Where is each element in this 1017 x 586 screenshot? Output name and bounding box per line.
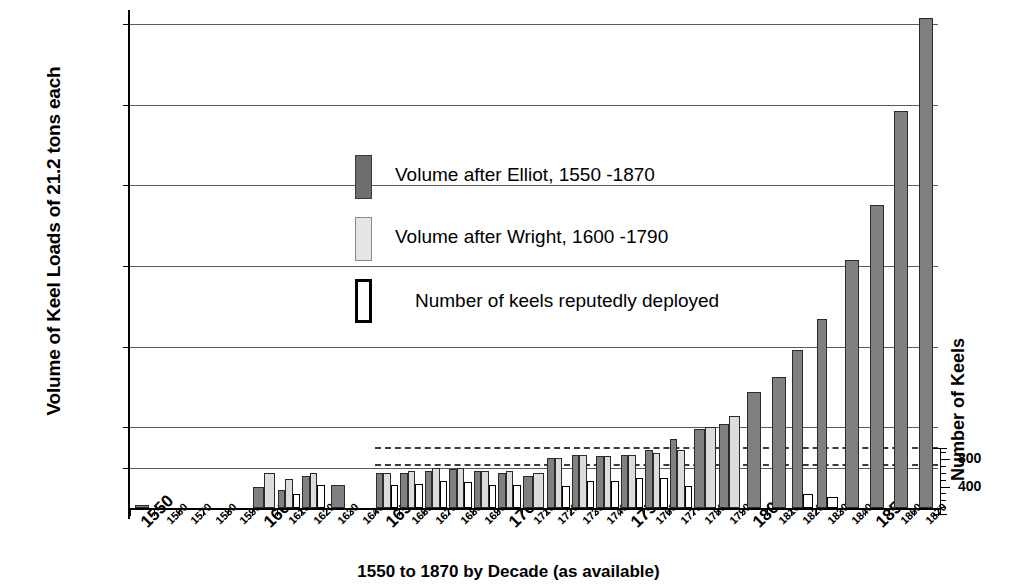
secondary-y-axis-tick: [941, 480, 946, 481]
bar-group: [669, 18, 693, 513]
bar-elliot[interactable]: [596, 456, 603, 508]
bar-elliot[interactable]: [694, 429, 705, 508]
bar-elliot[interactable]: [547, 458, 554, 508]
bar-group: [791, 18, 815, 513]
legend-swatch-keels: [355, 279, 372, 323]
bar-keels[interactable]: [391, 485, 398, 508]
chart-container: Volume of Keel Loads of 21.2 tons each N…: [0, 0, 1017, 586]
bar-elliot[interactable]: [870, 205, 884, 508]
bar-wright[interactable]: [677, 450, 684, 508]
bar-group: [522, 18, 546, 513]
bar-wright[interactable]: [533, 473, 544, 508]
bar-keels[interactable]: [317, 485, 324, 508]
bar-elliot[interactable]: [747, 392, 761, 508]
x-axis-title: 1550 to 1870 by Decade (as available): [0, 562, 1017, 582]
bar-elliot[interactable]: [670, 439, 677, 508]
legend-swatch-wright: [355, 217, 372, 261]
bar-elliot[interactable]: [135, 505, 149, 508]
bar-group: [571, 18, 595, 513]
bar-group: [840, 18, 864, 513]
bar-elliot[interactable]: [498, 473, 505, 508]
bar-wright[interactable]: [432, 468, 439, 508]
bar-wright[interactable]: [383, 473, 390, 508]
bar-wright[interactable]: [285, 479, 292, 508]
bar-elliot[interactable]: [645, 450, 652, 508]
bar-wright[interactable]: [628, 455, 635, 508]
bar-group: [473, 18, 497, 513]
legend-label: Number of keels reputedly deployed: [415, 290, 719, 312]
bar-elliot[interactable]: [474, 471, 481, 508]
secondary-axis-cap: [933, 514, 947, 515]
legend-swatch-elliot: [355, 155, 372, 199]
bar-elliot[interactable]: [400, 473, 407, 508]
bar-wright[interactable]: [653, 453, 660, 508]
bar-elliot[interactable]: [845, 260, 859, 508]
bar-wright[interactable]: [457, 468, 464, 508]
bar-group: [742, 18, 766, 513]
bar-elliot[interactable]: [376, 473, 383, 508]
bar-group: [179, 18, 203, 513]
bar-keels[interactable]: [464, 482, 471, 508]
bar-wright[interactable]: [506, 471, 513, 508]
bar-wright[interactable]: [264, 473, 275, 508]
bar-elliot[interactable]: [425, 471, 432, 508]
bar-wright[interactable]: [310, 473, 317, 508]
bar-elliot[interactable]: [719, 424, 730, 508]
bar-keels[interactable]: [587, 481, 594, 509]
bar-keels[interactable]: [611, 481, 618, 508]
bar-keels[interactable]: [489, 485, 496, 508]
bar-group: [865, 18, 889, 513]
bar-keels[interactable]: [803, 494, 814, 508]
bar-elliot[interactable]: [302, 476, 309, 508]
secondary-y-axis-tick-label: 800: [958, 451, 981, 465]
bar-group: [693, 18, 717, 513]
bar-wright[interactable]: [705, 427, 716, 508]
bar-group: [130, 18, 154, 513]
secondary-y-axis-tick: [941, 459, 950, 460]
secondary-y-axis-line: [940, 448, 941, 514]
bar-elliot[interactable]: [278, 490, 285, 508]
bar-elliot[interactable]: [919, 18, 933, 508]
bar-wright[interactable]: [604, 456, 611, 508]
bar-keels[interactable]: [440, 481, 447, 509]
bar-wright[interactable]: [481, 471, 488, 508]
bar-keels[interactable]: [636, 478, 643, 508]
bar-keels[interactable]: [513, 485, 520, 508]
bar-elliot[interactable]: [449, 469, 456, 508]
y-axis-tick: [123, 468, 130, 469]
bar-group: [620, 18, 644, 513]
plot-area: 25,00050,000100,000150,000200,000250,000…: [130, 18, 938, 513]
bar-wright[interactable]: [579, 455, 586, 508]
bar-elliot[interactable]: [572, 455, 579, 508]
bar-elliot[interactable]: [621, 455, 628, 508]
bar-wright[interactable]: [408, 471, 415, 508]
y-axis-tick: [123, 105, 130, 106]
secondary-y-axis-tick-label: 400: [958, 479, 981, 493]
bar-elliot[interactable]: [817, 319, 828, 508]
bar-elliot[interactable]: [331, 485, 345, 508]
bar-elliot[interactable]: [772, 377, 786, 508]
bar-keels[interactable]: [562, 486, 569, 508]
secondary-axis-cap: [933, 448, 947, 449]
bar-elliot[interactable]: [253, 487, 264, 508]
x-axis-tick: [130, 509, 131, 516]
bar-elliot[interactable]: [523, 476, 534, 508]
bar-keels[interactable]: [827, 497, 838, 508]
bar-keels[interactable]: [660, 478, 667, 508]
secondary-y-axis-tick: [941, 487, 950, 488]
bar-group: [350, 18, 374, 513]
bar-keels[interactable]: [685, 486, 692, 508]
bar-elliot[interactable]: [792, 350, 803, 508]
bar-wright[interactable]: [555, 458, 562, 508]
y-axis-tick: [123, 266, 130, 267]
bar-group: [497, 18, 521, 513]
bar-elliot[interactable]: [894, 111, 908, 508]
bar-keels[interactable]: [415, 484, 422, 508]
bar-wright[interactable]: [729, 416, 740, 508]
bar-keels[interactable]: [293, 494, 300, 508]
bar-group: [228, 18, 252, 513]
bar-group: [424, 18, 448, 513]
bar-group: [914, 18, 938, 513]
bar-group: [252, 18, 276, 513]
bar-group: [448, 18, 472, 513]
